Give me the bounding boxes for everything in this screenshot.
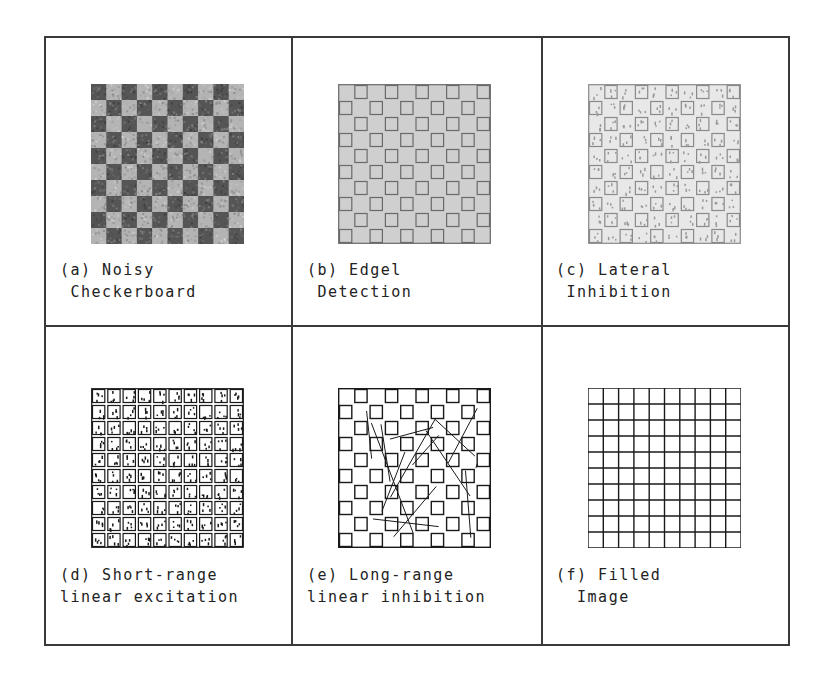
caption-c: (c) Lateral Inhibition (556, 259, 672, 303)
short-range-excitation-image (91, 388, 244, 548)
edgel-detection-image (338, 84, 491, 244)
caption-line-1: (b) Edgel (307, 261, 402, 279)
caption-line-1: (d) Short-range (60, 566, 218, 584)
caption-e: (e) Long-range linear inhibition (307, 564, 486, 608)
long-range-inhibition-image (338, 388, 491, 548)
column-divider-2 (541, 36, 543, 646)
caption-line-1: (e) Long-range (307, 566, 454, 584)
caption-d: (d) Short-range linear excitation (60, 564, 239, 608)
caption-b: (b) Edgel Detection (307, 259, 412, 303)
lateral-inhibition-image (588, 84, 741, 244)
caption-a: (a) Noisy Checkerboard (60, 259, 197, 303)
caption-line-2: linear excitation (60, 588, 239, 606)
caption-line-1: (c) Lateral (556, 261, 672, 279)
caption-line-2: linear inhibition (307, 588, 486, 606)
caption-line-1: (f) Filled (556, 566, 661, 584)
caption-line-2: Detection (307, 283, 412, 301)
noisy-checkerboard-image (91, 84, 244, 244)
filled-image (588, 388, 741, 548)
row-divider (44, 325, 790, 327)
caption-line-2: Inhibition (556, 283, 672, 301)
caption-f: (f) Filled Image (556, 564, 661, 608)
caption-line-2: Image (556, 588, 630, 606)
caption-line-1: (a) Noisy (60, 261, 155, 279)
caption-line-2: Checkerboard (60, 283, 197, 301)
column-divider-1 (291, 36, 293, 646)
